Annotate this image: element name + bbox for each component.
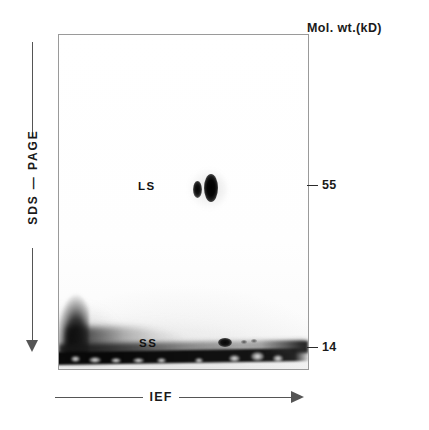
dye-front-right-wedge xyxy=(262,341,308,353)
dye-front-gap xyxy=(71,356,80,362)
mw-tick-55: 55 xyxy=(307,178,337,192)
dye-front-gap xyxy=(89,357,101,363)
ief-axis-line-right xyxy=(179,397,295,398)
tick-mark xyxy=(307,347,318,348)
dye-front-gap xyxy=(251,352,264,361)
mw-tick-14: 14 xyxy=(307,340,337,354)
ief-axis-label: IEF xyxy=(145,390,177,404)
dye-front-gap xyxy=(111,358,121,363)
sds-axis-line-lower xyxy=(32,248,33,348)
gel-panel: LS SS xyxy=(58,34,309,370)
ss-spot-minor-1 xyxy=(241,340,247,344)
ls-label: LS xyxy=(138,180,156,192)
dye-front-gap xyxy=(195,358,203,363)
dye-front-gap xyxy=(157,358,166,363)
ief-axis-line-left xyxy=(55,397,143,398)
dye-front-gap xyxy=(273,355,283,362)
ss-spot-main xyxy=(218,338,232,347)
tick-mark xyxy=(307,185,318,186)
ls-spot-major xyxy=(204,174,218,202)
right-arrow-icon xyxy=(291,391,304,403)
mw-tick-label: 14 xyxy=(322,340,337,354)
down-arrow-icon xyxy=(26,340,38,352)
mol-wt-title: Mol. wt.(kD) xyxy=(307,21,382,35)
ief-axis: IEF xyxy=(55,388,310,408)
gel-figure: Mol. wt.(kD) LS SS xyxy=(0,0,429,430)
ls-spot-minor xyxy=(193,181,202,198)
mw-tick-label: 55 xyxy=(322,178,337,192)
sds-page-axis: SDS — PAGE xyxy=(20,42,46,360)
ss-spot-minor-2 xyxy=(251,339,257,343)
dye-front-gap xyxy=(229,355,240,362)
sds-page-axis-label: SDS — PAGE xyxy=(26,120,40,234)
ss-label: SS xyxy=(139,337,158,349)
dye-front-gap xyxy=(133,358,144,363)
